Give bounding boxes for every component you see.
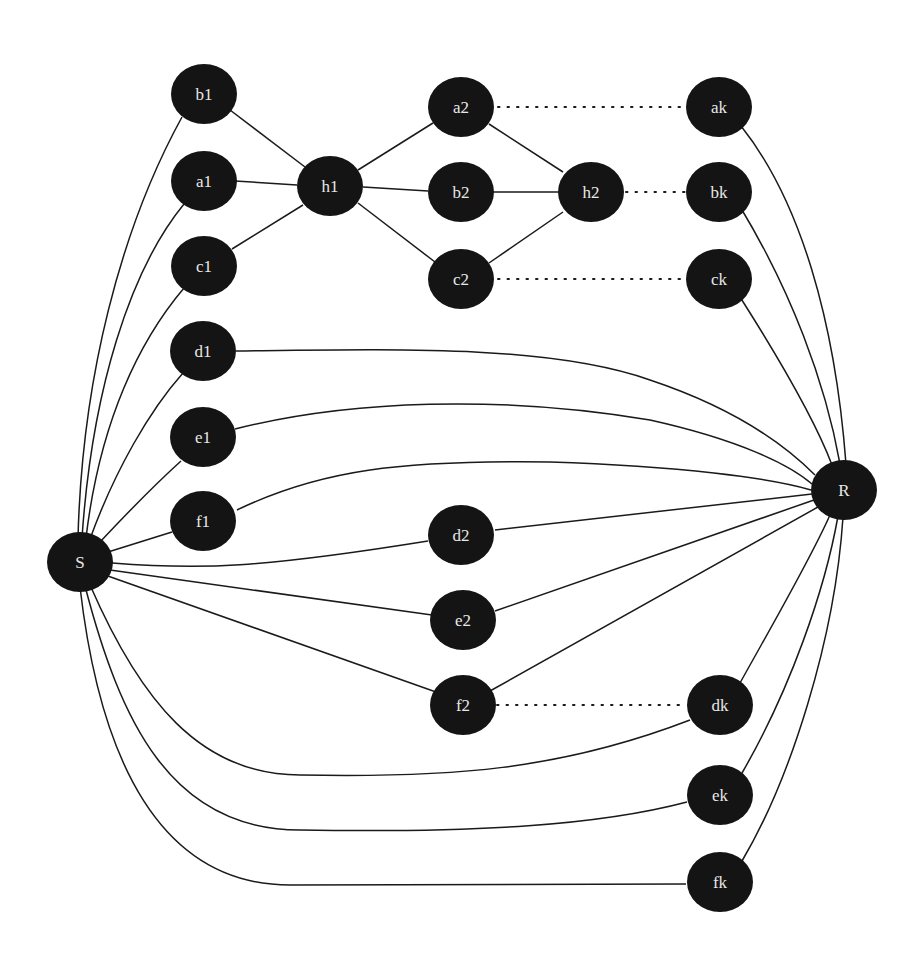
node-label: S [75,553,84,572]
edge-ak-r [741,126,846,464]
nodes-layer: b1a1c1h1a2b2c2h2akbkckd1e1f1SRd2e2f2dkek… [47,64,877,912]
edge-d2-r [495,494,812,530]
node-label: e2 [455,611,471,630]
node-label: c1 [196,257,212,276]
edge-c1-h1 [232,205,303,249]
node-c2: c2 [428,249,494,309]
node-b2: b2 [428,162,494,222]
node-label: b2 [453,183,470,202]
edge-dk-r [740,515,830,683]
node-label: h1 [322,177,339,196]
node-b1: b1 [171,64,237,124]
edge-e1-r [235,404,812,484]
node-ek: ek [687,765,753,825]
edge-s-e1 [100,461,181,542]
node-ck: ck [686,249,752,309]
node-label: a1 [196,172,212,191]
edge-s-c1 [86,288,184,538]
node-f1: f1 [170,491,236,551]
node-d1: d1 [170,321,236,381]
node-bk: bk [686,162,752,222]
edge-c2-h2 [489,212,563,263]
edge-a2-h2 [489,124,563,172]
node-label: f1 [196,512,210,531]
edge-s-dk [90,585,690,776]
node-label: d2 [453,526,470,545]
node-label: bk [711,183,729,202]
edge-h1-c2 [358,203,435,262]
edge-e2-r [495,500,814,611]
node-e1: e1 [170,407,236,467]
node-d2: d2 [428,505,494,565]
node-f2: f2 [430,675,496,735]
edge-h1-a2 [358,123,433,170]
node-label: dk [712,696,730,715]
node-label: ck [711,270,728,289]
node-label: ek [712,786,729,805]
edge-b1-h1 [230,110,305,167]
edge-a1-h1 [235,181,297,185]
node-R: R [811,460,877,520]
edge-f1-r [237,462,811,510]
node-a2: a2 [428,77,494,137]
node-label: e1 [195,428,211,447]
node-label: fk [713,873,728,892]
node-label: h2 [583,183,600,202]
edge-s-d2 [112,541,428,566]
node-label: f2 [456,696,470,715]
edge-fk-r [742,517,843,861]
node-label: a2 [453,98,469,117]
node-h1: h1 [297,156,363,216]
node-a1: a1 [171,151,237,211]
edge-s-ek [85,586,687,831]
node-h2: h2 [558,162,624,222]
edge-s-e2 [110,570,432,615]
node-e2: e2 [430,590,496,650]
edge-h1-b2 [363,187,428,191]
node-label: ak [711,98,728,117]
node-label: c2 [453,270,469,289]
node-c1: c1 [171,236,237,296]
node-S: S [47,532,113,592]
edge-ck-r [740,297,832,465]
edge-f2-r [490,507,818,691]
node-label: R [838,481,850,500]
node-dk: dk [687,675,753,735]
edge-s-f1 [108,532,172,552]
edge-bk-r [742,210,840,464]
node-label: d1 [195,342,212,361]
edge-s-d1 [90,373,183,539]
edge-s-a1 [82,204,184,538]
network-diagram: b1a1c1h1a2b2c2h2akbkckd1e1f1SRd2e2f2dkek… [0,0,918,955]
node-fk: fk [687,852,753,912]
node-label: b1 [196,85,213,104]
node-ak: ak [686,77,752,137]
